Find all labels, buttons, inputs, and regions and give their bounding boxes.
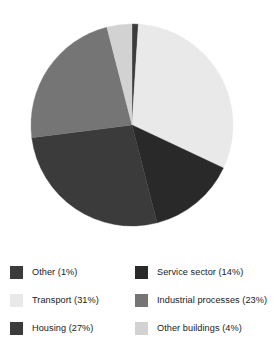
legend-swatch-housing [10,322,23,335]
legend-item-other-buildings[interactable]: Other buildings (4%) [135,314,267,342]
legend-swatch-transport [10,294,23,307]
legend-swatch-other [10,266,23,279]
legend-column-left: Other (1%) Transport (31%) Housing (27%) [10,258,99,342]
legend-label-transport: Transport (31%) [32,295,99,306]
legend-label-other-buildings: Other buildings (4%) [157,323,242,334]
legend-swatch-industrial-processes [135,294,148,307]
pie-chart-figure: Other (1%) Transport (31%) Housing (27%)… [0,0,274,355]
legend-item-industrial-processes[interactable]: Industrial processes (23%) [135,286,267,314]
legend-item-housing[interactable]: Housing (27%) [10,314,99,342]
legend-label-industrial-processes: Industrial processes (23%) [157,295,267,306]
legend-swatch-service-sector [135,266,148,279]
legend-swatch-other-buildings [135,322,148,335]
legend-item-service-sector[interactable]: Service sector (14%) [135,258,267,286]
legend-column-right: Service sector (14%) Industrial processe… [135,258,267,342]
chart-legend: Other (1%) Transport (31%) Housing (27%)… [0,258,274,355]
legend-item-other[interactable]: Other (1%) [10,258,99,286]
pie-chart-plot-area [0,0,274,248]
legend-label-housing: Housing (27%) [32,323,93,334]
legend-label-other: Other (1%) [32,267,77,278]
legend-label-service-sector: Service sector (14%) [157,267,243,278]
pie-chart-svg [0,0,274,248]
legend-item-transport[interactable]: Transport (31%) [10,286,99,314]
pie-slice-group [31,24,233,226]
